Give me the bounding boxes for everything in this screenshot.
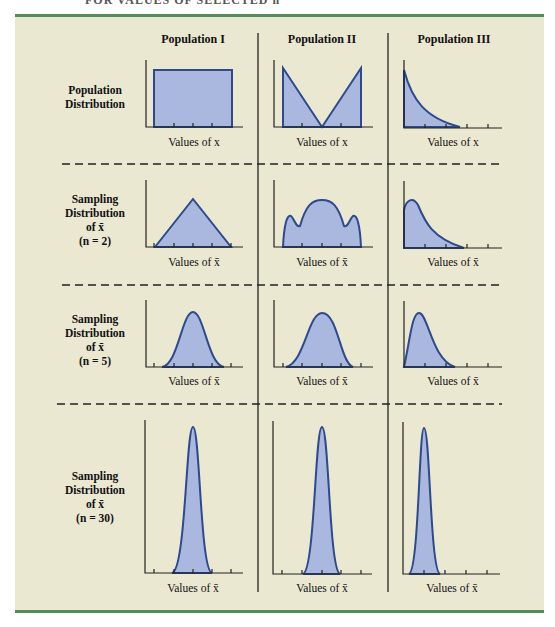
svg-text:Population: Population xyxy=(68,84,122,97)
svg-text:Values of x: Values of x xyxy=(168,136,220,148)
plot-pop3-n2: Values of x̄ xyxy=(404,181,502,268)
column-header-population-1: Population I xyxy=(161,32,225,46)
svg-text:of x̄: of x̄ xyxy=(86,221,104,233)
plot-pop1-n2: Values of x̄ xyxy=(146,180,243,268)
svg-text:Values of x̄: Values of x̄ xyxy=(296,582,348,594)
svg-text:Values of x̄: Values of x̄ xyxy=(168,375,220,387)
svg-text:Sampling: Sampling xyxy=(72,313,119,326)
row-header-sampling-n5: Sampling Distribution of x̄ (n = 5) xyxy=(65,313,126,368)
svg-text:Values of x: Values of x xyxy=(427,136,479,148)
svg-text:Sampling: Sampling xyxy=(72,193,119,206)
sampling-distribution-diagram: Population I Population II Population II… xyxy=(0,0,555,627)
svg-text:Values of x̄: Values of x̄ xyxy=(296,375,348,387)
svg-text:Distribution: Distribution xyxy=(65,207,126,219)
svg-text:Distribution: Distribution xyxy=(65,484,126,496)
plot-pop2-n5: Values of x̄ xyxy=(274,300,373,387)
plot-pop2-n30: Values of x̄ xyxy=(273,421,372,594)
row-header-population-distribution: Population Distribution xyxy=(65,84,126,110)
svg-text:(n = 30): (n = 30) xyxy=(76,512,114,525)
svg-text:Values of x̄: Values of x̄ xyxy=(296,256,348,268)
svg-text:Values of x: Values of x xyxy=(296,136,348,148)
plot-pop1-population: Values of x xyxy=(146,60,243,148)
svg-text:Values of x̄: Values of x̄ xyxy=(426,582,478,594)
svg-text:Sampling: Sampling xyxy=(72,470,119,483)
svg-text:Values of x̄: Values of x̄ xyxy=(168,256,220,268)
svg-text:(n = 5): (n = 5) xyxy=(79,355,111,368)
svg-text:of x̄: of x̄ xyxy=(86,341,104,353)
row-header-sampling-n30: Sampling Distribution of x̄ (n = 30) xyxy=(65,470,126,525)
plot-pop1-n30: Values of x̄ xyxy=(145,420,243,594)
svg-text:Distribution: Distribution xyxy=(65,98,126,110)
svg-text:(n = 2): (n = 2) xyxy=(79,235,111,248)
svg-text:Values of x̄: Values of x̄ xyxy=(167,582,219,594)
row-header-sampling-n2: Sampling Distribution of x̄ (n = 2) xyxy=(65,193,126,248)
column-header-population-2: Population II xyxy=(288,32,357,46)
plot-pop2-n2: Values of x̄ xyxy=(274,180,373,268)
plot-pop3-population: Values of x xyxy=(404,60,502,148)
svg-text:Values of x̄: Values of x̄ xyxy=(427,375,479,387)
column-header-population-3: Population III xyxy=(417,32,490,46)
plot-pop1-n5: Values of x̄ xyxy=(146,300,243,387)
plot-pop3-n5: Values of x̄ xyxy=(404,301,502,387)
svg-text:of x̄: of x̄ xyxy=(86,498,104,510)
plot-pop2-population: Values of x xyxy=(274,60,373,148)
plot-pop3-n30: Values of x̄ xyxy=(403,422,500,594)
svg-text:Values of x̄: Values of x̄ xyxy=(427,256,479,268)
svg-text:Distribution: Distribution xyxy=(65,327,126,339)
